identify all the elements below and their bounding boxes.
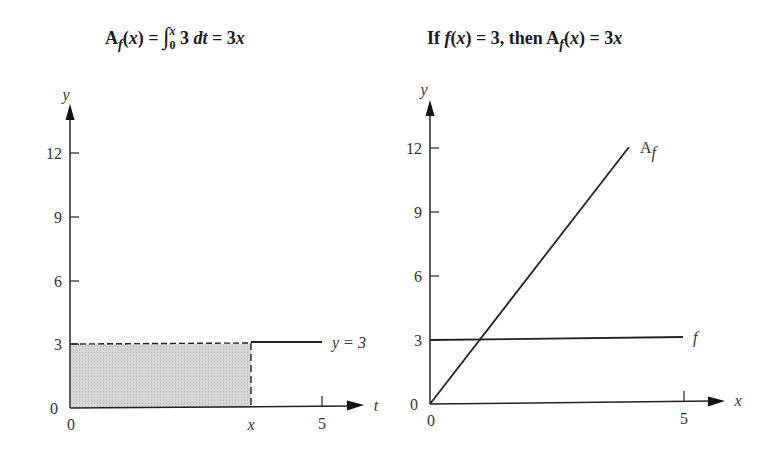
y-tick-label: 9 <box>54 209 62 226</box>
x-tick-label: 0 <box>67 416 75 433</box>
y-axis-label: y <box>60 86 70 104</box>
y-tick-label: 0 <box>50 400 58 417</box>
right-y-axis-arrow-icon <box>426 100 435 116</box>
y-tick-label: 9 <box>414 204 422 221</box>
left-chart-title: Af(x) = ∫0x 3 dt = 3x <box>105 23 245 52</box>
x-tick-label: 0 <box>427 412 435 429</box>
line-area-function <box>430 147 629 404</box>
curve-label-y-3: y = 3 <box>330 334 366 352</box>
y-tick-label: 6 <box>54 273 62 290</box>
left-chart: Af(x) = ∫0x 3 dt = 3x 0 3 6 9 12 0 x 5 y… <box>46 23 379 433</box>
y-axis-label: y <box>418 81 428 99</box>
y-tick-label: 0 <box>410 396 418 413</box>
y-tick-label: 12 <box>46 145 62 162</box>
y-tick-label: 3 <box>54 336 62 353</box>
right-x-axis-arrow-icon <box>708 397 725 407</box>
right-x-axis <box>430 401 712 404</box>
curve-label-area-function: Af <box>640 139 659 162</box>
x-tick-label: x <box>246 416 254 433</box>
left-y-axis-arrow-icon <box>66 104 75 120</box>
curve-label-f: f <box>693 329 700 347</box>
x-tick-label: 5 <box>318 415 326 432</box>
shaded-area <box>71 344 251 408</box>
y-tick-label: 3 <box>414 332 422 349</box>
line-f <box>430 337 683 340</box>
right-chart-title: If f(x) = 3, then Af(x) = 3x <box>427 28 622 52</box>
right-chart: If f(x) = 3, then Af(x) = 3x 0 3 6 9 12 … <box>406 28 742 429</box>
dashed-top-edge <box>71 343 251 344</box>
left-x-axis-arrow-icon <box>347 401 364 411</box>
y-tick-label: 12 <box>406 140 422 157</box>
x-axis-label: x <box>733 392 741 409</box>
x-axis-label: t <box>374 397 379 414</box>
x-tick-label: 5 <box>680 410 688 427</box>
y-tick-label: 6 <box>414 268 422 285</box>
